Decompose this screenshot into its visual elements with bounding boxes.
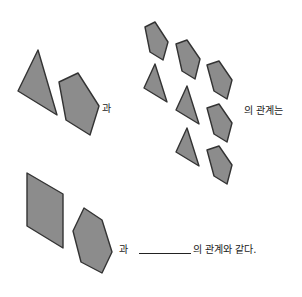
hexagon-shape [73, 208, 112, 273]
hexagon-shape [207, 61, 232, 99]
text-same-as-relation: 의 관계와 같다. [193, 241, 257, 256]
text-and-2: 과 [119, 241, 128, 256]
hexagon-shape [207, 146, 232, 184]
triangle-shape [176, 86, 199, 124]
triangle-shape [18, 50, 57, 115]
hexagon-shape [145, 22, 168, 60]
answer-blank[interactable] [139, 242, 191, 254]
hexagon-shape [176, 40, 200, 79]
triangle-shape [144, 64, 167, 102]
text-relation-is: 의 관계는 [244, 102, 283, 117]
text-and-1: 과 [102, 100, 111, 115]
triangle-shape [176, 128, 199, 166]
hexagon-shape [207, 104, 232, 142]
parallelogram-shape [27, 173, 63, 248]
hexagon-shape [59, 73, 99, 135]
